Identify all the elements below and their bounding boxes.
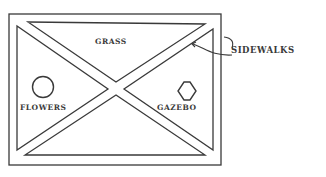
grass-label: GRASS — [95, 37, 127, 46]
gazebo-icon — [178, 82, 196, 100]
gazebo-label: GAZEBO — [157, 103, 196, 112]
park-diagram: FLOWERS GAZEBO GRASS SIDEWALKS — [0, 0, 326, 177]
flowers-icon — [33, 77, 54, 98]
sidewalks-label: SIDEWALKS — [231, 45, 295, 55]
flowers-label: FLOWERS — [20, 103, 66, 112]
